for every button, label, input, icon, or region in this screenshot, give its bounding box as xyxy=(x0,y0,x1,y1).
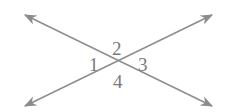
diagram-svg: 1 2 3 4 xyxy=(0,0,235,112)
angle-diagram: 1 2 3 4 xyxy=(0,0,235,112)
angle-label-1: 1 xyxy=(89,54,99,75)
angle-label-2: 2 xyxy=(112,38,122,59)
angle-label-4: 4 xyxy=(113,71,123,92)
angle-label-3: 3 xyxy=(138,54,148,75)
